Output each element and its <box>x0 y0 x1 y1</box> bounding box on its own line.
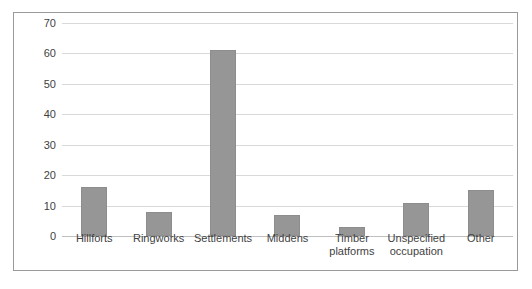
y-axis-tick-label: 0 <box>26 231 56 242</box>
chart-plot-wrapper: 010203040506070 HillfortsRingworksSettle… <box>14 13 517 270</box>
y-axis-tick-label: 50 <box>26 78 56 89</box>
bar[interactable] <box>210 50 236 236</box>
x-axis-tick-label-line: Other <box>449 232 513 245</box>
y-axis-tick-label: 30 <box>26 139 56 150</box>
x-axis-tick-label: Unspecifiedoccupation <box>384 232 448 258</box>
x-axis-tick-label: Timberplatforms <box>320 232 384 258</box>
y-axis-tick-label: 20 <box>26 170 56 181</box>
x-axis-tick-label-line: Middens <box>255 232 319 245</box>
x-axis-tick-label: Middens <box>255 232 319 245</box>
x-axis-tick-label: Hillforts <box>62 232 126 245</box>
x-axis: HillfortsRingworksSettlementsMiddensTimb… <box>62 224 513 270</box>
y-axis-tick-label: 10 <box>26 200 56 211</box>
x-axis-tick-label-line: Hillforts <box>62 232 126 245</box>
x-axis-tick-label-line: Ringworks <box>126 232 190 245</box>
x-axis-tick-label-line: Timber <box>320 232 384 245</box>
y-axis: 010203040506070 <box>24 13 56 270</box>
x-axis-tick-label: Ringworks <box>126 232 190 245</box>
chart-frame: 010203040506070 HillfortsRingworksSettle… <box>13 12 518 271</box>
y-axis-tick-label: 40 <box>26 109 56 120</box>
x-axis-tick-label: Settlements <box>191 232 255 245</box>
x-axis-tick-label-line: Settlements <box>191 232 255 245</box>
x-axis-tick-label-line: Unspecified <box>384 232 448 245</box>
x-axis-tick-label: Other <box>449 232 513 245</box>
y-axis-tick-label: 60 <box>26 48 56 59</box>
y-axis-tick-label: 70 <box>26 18 56 29</box>
x-axis-tick-label-line: platforms <box>320 245 384 258</box>
x-axis-tick-label-line: occupation <box>384 245 448 258</box>
